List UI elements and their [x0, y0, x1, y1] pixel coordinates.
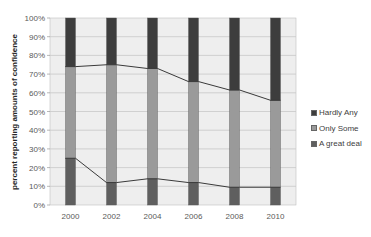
legend-swatch-icon	[311, 125, 317, 131]
bar-segment	[189, 18, 199, 82]
bar-segment	[271, 100, 281, 187]
bar-segment	[189, 82, 199, 183]
bar-segment	[271, 18, 281, 100]
bar-segment	[271, 187, 281, 205]
bar-segment	[66, 18, 76, 67]
y-tick-label: 50%	[29, 108, 45, 117]
x-tick-label: 2006	[185, 212, 203, 221]
legend-swatch-icon	[311, 110, 317, 116]
legend-swatch-icon	[311, 141, 317, 147]
x-tick-label: 2010	[267, 212, 285, 221]
legend-label: Only Some	[319, 124, 359, 133]
bar-segment	[107, 18, 117, 65]
x-tick-label: 2004	[144, 212, 162, 221]
y-tick-label: 60%	[29, 89, 45, 98]
bar-segment	[148, 18, 158, 68]
bar-segment	[148, 179, 158, 205]
legend-label: Hardly Any	[319, 108, 358, 117]
y-tick-label: 0%	[33, 201, 45, 210]
y-tick-label: 90%	[29, 33, 45, 42]
bar-segment	[148, 68, 158, 178]
y-tick-label: 70%	[29, 70, 45, 79]
legend-item-only-some: Only Some	[311, 121, 362, 137]
y-tick-label: 80%	[29, 51, 45, 60]
legend-label: A great deal	[319, 139, 362, 148]
y-axis-label: percent reporting amounts of confidence	[10, 33, 19, 190]
bar-segment	[230, 90, 240, 187]
y-tick-label: 10%	[29, 182, 45, 191]
legend-item-hardly-any: Hardly Any	[311, 105, 362, 121]
y-tick-label: 30%	[29, 145, 45, 154]
bar-segment	[66, 158, 76, 205]
y-axis-ticks: 0%10%20%30%40%50%60%70%80%90%100%	[25, 14, 50, 210]
legend-item-a-great-deal: A great deal	[311, 136, 362, 152]
bar-segment	[66, 67, 76, 159]
x-tick-label: 2008	[226, 212, 244, 221]
bar-segment	[230, 187, 240, 205]
y-tick-label: 20%	[29, 164, 45, 173]
bar-segment	[107, 65, 117, 183]
x-tick-label: 2000	[62, 212, 80, 221]
x-axis-ticks: 200020022004200620082010	[62, 212, 285, 221]
bar-segment	[230, 18, 240, 90]
legend: Hardly Any Only Some A great deal	[311, 105, 362, 152]
x-tick-label: 2002	[103, 212, 121, 221]
y-tick-label: 40%	[29, 126, 45, 135]
bar-segment	[189, 183, 199, 205]
bar-segment	[107, 183, 117, 205]
y-tick-label: 100%	[25, 14, 45, 23]
